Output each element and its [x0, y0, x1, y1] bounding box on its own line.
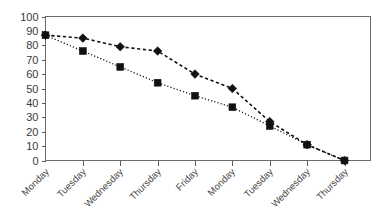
y-axis-tick-label: 80 — [26, 39, 38, 51]
data-point-square — [79, 48, 86, 55]
y-axis-tick-label: 90 — [26, 25, 38, 37]
x-axis-tick-label: Wednesday — [82, 166, 125, 209]
x-axis-tick-label: Tuesday — [55, 166, 88, 199]
y-axis-tick-label: 20 — [26, 126, 38, 138]
data-point-diamond — [79, 34, 88, 43]
x-axis-tick-label: Thursday — [127, 166, 163, 202]
line-chart: 0102030405060708090100MondayTuesdayWedne… — [0, 0, 381, 215]
data-point-diamond — [191, 70, 200, 79]
x-axis-tick-label: Tuesday — [242, 166, 275, 199]
x-axis-tick-label: Friday — [173, 166, 200, 193]
data-point-square — [154, 79, 161, 86]
data-point-square — [42, 32, 49, 39]
y-axis-tick-label: 70 — [26, 54, 38, 66]
y-axis-tick-label: 40 — [26, 97, 38, 109]
chart-container: 0102030405060708090100MondayTuesdayWedne… — [0, 0, 381, 215]
plot-area-border — [46, 17, 371, 161]
y-axis-tick-label: 30 — [26, 111, 38, 123]
y-axis-tick-label: 100 — [20, 11, 38, 23]
data-point-square — [304, 141, 311, 148]
data-point-diamond — [116, 42, 125, 51]
y-axis-tick-label: 60 — [26, 68, 38, 80]
x-axis-tick-label: Wednesday — [269, 166, 312, 209]
data-point-square — [229, 104, 236, 111]
data-point-diamond — [228, 84, 237, 93]
series-2 — [42, 32, 348, 164]
data-point-square — [341, 157, 348, 164]
data-point-diamond — [153, 47, 162, 56]
x-axis-tick-label: Monday — [205, 166, 237, 198]
x-axis: MondayTuesdayWednesdayThursdayFridayMond… — [19, 161, 350, 210]
y-axis-tick-label: 50 — [26, 83, 38, 95]
y-axis-tick-label: 10 — [26, 140, 38, 152]
data-point-square — [192, 92, 199, 99]
data-point-square — [266, 123, 273, 130]
y-axis-tick-label: 0 — [32, 155, 38, 167]
x-axis-tick-label: Thursday — [314, 166, 350, 202]
x-axis-tick-label: Monday — [19, 166, 51, 198]
data-point-square — [117, 64, 124, 71]
